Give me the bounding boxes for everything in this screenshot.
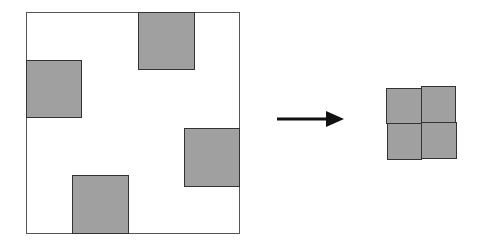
scattered-square-top [138, 12, 195, 70]
scattered-square-right [184, 128, 240, 187]
grouped-square-bottom-left [387, 123, 422, 160]
grouped-square-bottom-right [421, 122, 457, 159]
grouped-square-top-right [421, 86, 456, 123]
right-arrow-icon [270, 105, 350, 133]
grouped-square-top-left [386, 88, 422, 124]
scattered-square-left [26, 60, 82, 118]
container-square [26, 12, 240, 234]
scattered-square-bottom [72, 175, 129, 234]
